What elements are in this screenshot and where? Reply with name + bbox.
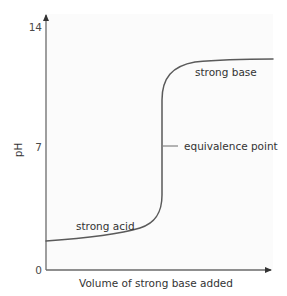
annotation-strong-acid: strong acid (76, 220, 135, 232)
annotation-strong-base: strong base (195, 66, 257, 78)
annotation-equivalence-point: equivalence point (184, 140, 278, 152)
y-tick-0: 0 (35, 264, 42, 276)
x-axis-title: Volume of strong base added (79, 277, 233, 289)
y-axis-title: pH (12, 143, 24, 158)
titration-chart: 14 7 0 pH Volume of strong base added st… (0, 0, 287, 296)
y-tick-14: 14 (29, 21, 43, 33)
y-tick-7: 7 (35, 141, 42, 153)
